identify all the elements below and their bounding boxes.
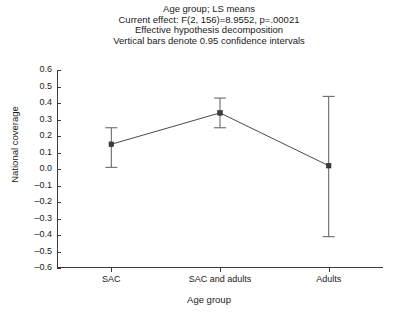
chart-title-line-4: Vertical bars denote 0.95 confidence int… — [0, 36, 418, 47]
x-tick-mark — [329, 268, 330, 272]
y-tick-label: –0.4 — [12, 230, 52, 239]
x-tick-label: SAC and adults — [189, 274, 252, 284]
y-axis-label: National coverage — [9, 85, 20, 205]
y-tick-label: –0.3 — [12, 214, 52, 223]
y-tick-mark — [57, 120, 61, 121]
y-tick-mark — [57, 136, 61, 137]
y-tick-label: 0.6 — [12, 65, 52, 74]
plot-area — [57, 70, 383, 268]
plot-inner — [58, 70, 383, 267]
y-tick-mark — [57, 268, 61, 269]
y-tick-mark — [57, 70, 61, 71]
y-tick-mark — [57, 235, 61, 236]
y-tick-mark — [57, 252, 61, 253]
y-tick-mark — [57, 153, 61, 154]
chart-title-block: Age group; LS means Current effect: F(2,… — [0, 4, 418, 46]
y-tick-label: –0.5 — [12, 247, 52, 256]
y-tick-mark — [57, 202, 61, 203]
y-tick-mark — [57, 186, 61, 187]
x-tick-label: SAC — [102, 274, 121, 284]
chart-title-line-1: Age group; LS means — [0, 4, 418, 15]
y-tick-label: –0.6 — [12, 263, 52, 272]
x-tick-label: Adults — [316, 274, 341, 284]
y-tick-mark — [57, 87, 61, 88]
y-tick-mark — [57, 169, 61, 170]
chart-figure: Age group; LS means Current effect: F(2,… — [0, 0, 418, 316]
x-tick-mark — [111, 268, 112, 272]
x-axis-label: Age group — [0, 294, 418, 305]
x-tick-mark — [220, 268, 221, 272]
y-tick-mark — [57, 219, 61, 220]
y-tick-mark — [57, 103, 61, 104]
